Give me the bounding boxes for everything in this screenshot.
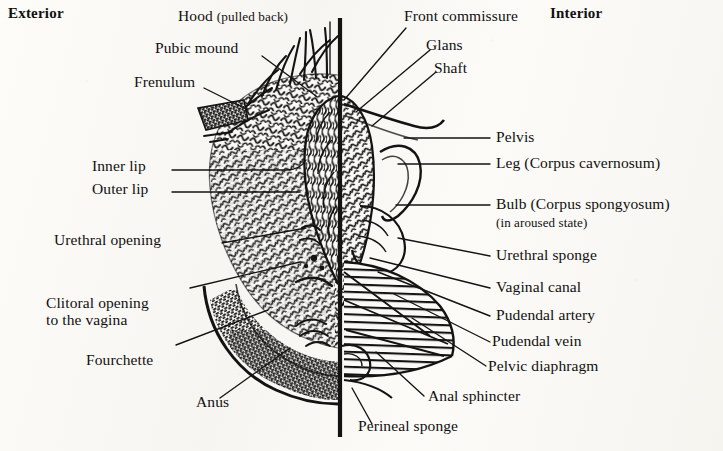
- diagram-page: Exterior Interior Hood (pulled back) Pub…: [0, 0, 723, 451]
- label-pubic-mound: Pubic mound: [155, 40, 238, 56]
- label-anal-sphincter: Anal sphincter: [428, 388, 520, 404]
- label-hood-note: (pulled back): [217, 9, 288, 24]
- label-bulb-note: (in aroused state): [496, 216, 587, 230]
- label-clitoral-opening-line1: Clitoral opening: [46, 294, 149, 311]
- label-anus: Anus: [196, 394, 229, 410]
- label-pelvic-diaphragm: Pelvic diaphragm: [488, 358, 599, 374]
- leader-glans: [356, 50, 430, 112]
- label-glans: Glans: [426, 37, 463, 53]
- label-clitoral-opening-line2: to the vagina: [46, 311, 127, 328]
- label-vaginal-canal: Vaginal canal: [496, 279, 581, 295]
- label-inner-lip: Inner lip: [92, 158, 146, 174]
- exterior-artwork: [198, 28, 350, 405]
- label-leg: Leg (Corpus cavernosum): [496, 155, 660, 171]
- label-front-commissure: Front commissure: [404, 8, 518, 24]
- label-pelvis: Pelvis: [496, 129, 535, 145]
- anatomy-illustration: [0, 0, 723, 451]
- label-urethral-opening: Urethral opening: [54, 232, 161, 248]
- leader-shaft: [372, 72, 436, 126]
- label-hood-text: Hood: [178, 7, 213, 24]
- interior-artwork: [340, 90, 465, 398]
- label-frenulum: Frenulum: [134, 74, 195, 90]
- label-pudendal-vein: Pudendal vein: [492, 333, 582, 349]
- label-urethral-sponge: Urethral sponge: [496, 247, 597, 263]
- heading-interior: Interior: [550, 6, 602, 22]
- leader-urethral-sponge: [398, 238, 490, 256]
- label-outer-lip: Outer lip: [92, 181, 148, 197]
- label-shaft: Shaft: [434, 60, 467, 76]
- leader-front-commissure: [344, 28, 406, 100]
- label-bulb: Bulb (Corpus spongyosum): [496, 196, 670, 212]
- label-perineal-sponge: Perineal sponge: [358, 418, 458, 434]
- label-fourchette: Fourchette: [86, 352, 153, 368]
- label-clitoral-opening: Clitoral opening to the vagina: [46, 294, 196, 329]
- label-hood: Hood (pulled back): [178, 8, 288, 24]
- label-pudendal-artery: Pudendal artery: [496, 307, 595, 323]
- heading-exterior: Exterior: [8, 6, 64, 22]
